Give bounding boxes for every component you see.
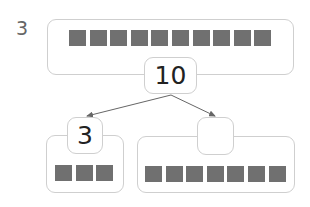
unit-square <box>248 166 265 182</box>
unit-square <box>186 166 203 182</box>
unit-square <box>227 166 244 182</box>
part-right-squares <box>145 166 286 182</box>
unit-square <box>145 166 162 182</box>
part-left-value-box: 3 <box>67 117 103 154</box>
part-right-answer-box[interactable] <box>197 117 234 155</box>
unit-square <box>207 166 224 182</box>
unit-square <box>166 166 183 182</box>
unit-square <box>76 165 93 181</box>
part-left-squares <box>55 165 113 181</box>
unit-square <box>269 166 286 182</box>
unit-square <box>96 165 113 181</box>
unit-square <box>55 165 72 181</box>
